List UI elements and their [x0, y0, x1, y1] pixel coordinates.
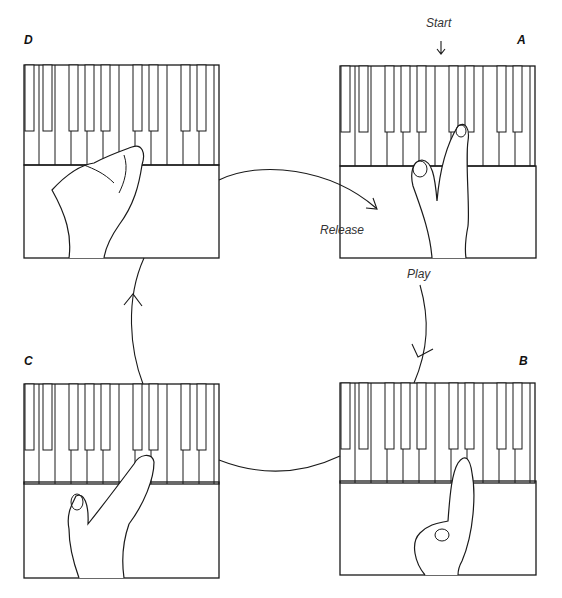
panel-d [24, 65, 219, 258]
panel-letter-d: D [24, 33, 33, 47]
arrow-b-to-c [219, 456, 340, 471]
panel-letter-a: A [517, 33, 526, 47]
start-label: Start [426, 16, 451, 30]
panel-a [340, 66, 536, 258]
panel-c [24, 384, 219, 578]
release-label: Release [320, 223, 364, 237]
panel-letter-b: B [519, 354, 528, 368]
play-label: Play [407, 267, 430, 281]
arrow-release [219, 169, 376, 208]
arrow-play [414, 285, 426, 383]
panel-b [340, 383, 536, 575]
arrowhead-play-icon [412, 344, 433, 357]
cycle-diagram [0, 0, 562, 598]
start-arrow-icon [437, 41, 445, 54]
panel-letter-c: C [24, 354, 33, 368]
arrow-c-to-d [131, 258, 144, 384]
